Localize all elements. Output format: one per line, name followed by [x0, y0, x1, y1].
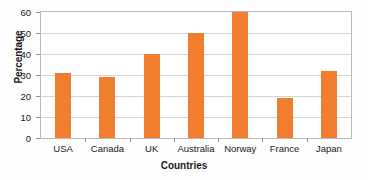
- bar: [277, 98, 293, 138]
- bar: [144, 54, 160, 138]
- y-axis-tick-label: 30: [13, 71, 31, 80]
- x-axis-tick-label: USA: [41, 143, 85, 154]
- y-axis-tick-label: 50: [13, 29, 31, 38]
- x-axis-title: Countries: [0, 160, 368, 171]
- y-axis-tick-label: 0: [13, 134, 31, 143]
- x-axis-tick-label: Norway: [218, 143, 262, 154]
- plot-area: [40, 11, 352, 139]
- bar-chart: Percentage 0102030405060 USACanadaUKAust…: [0, 0, 368, 180]
- x-axis-tick: [174, 138, 175, 142]
- bar: [55, 73, 71, 138]
- bar: [99, 77, 115, 138]
- y-axis-tick-label: 10: [13, 113, 31, 122]
- y-axis-tick-label: 60: [13, 8, 31, 17]
- x-axis-tick: [307, 138, 308, 142]
- bar: [232, 12, 248, 138]
- x-axis-tick-label: Canada: [85, 143, 129, 154]
- bar: [321, 71, 337, 138]
- bar: [188, 33, 204, 138]
- x-axis-tick: [262, 138, 263, 142]
- y-axis-tick-label: 20: [13, 92, 31, 101]
- x-axis-tick-label: UK: [130, 143, 174, 154]
- x-axis-tick: [85, 138, 86, 142]
- x-axis-tick: [218, 138, 219, 142]
- x-axis-tick-label: France: [262, 143, 306, 154]
- x-axis-tick-label: Australia: [174, 143, 218, 154]
- x-axis-tick: [130, 138, 131, 142]
- y-axis-tick-label: 40: [13, 50, 31, 59]
- x-axis-tick-label: Japan: [307, 143, 351, 154]
